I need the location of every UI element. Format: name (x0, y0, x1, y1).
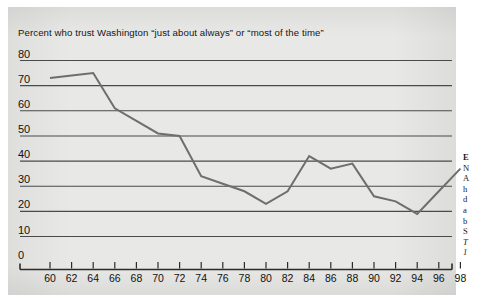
x-axis-tick-label: 82 (278, 272, 298, 284)
side-text-line: b (463, 216, 483, 227)
side-text-line: a (463, 205, 483, 216)
x-axis-tick-label: 84 (299, 272, 319, 284)
x-axis-tick-label: 66 (105, 272, 125, 284)
y-axis-tick-label: 80 (18, 48, 30, 60)
side-text-line: S (463, 226, 483, 237)
side-text-line: E (463, 152, 483, 163)
x-axis-tick-label: 96 (429, 272, 449, 284)
y-axis-tick-label: 10 (18, 224, 30, 236)
chart-panel (8, 7, 456, 295)
y-axis-tick-label: 70 (18, 73, 30, 85)
x-axis-tick-label: 94 (407, 272, 427, 284)
y-axis-tick-label: 60 (18, 98, 30, 110)
x-axis-tick-label: 68 (126, 272, 146, 284)
x-axis-tick-label: 74 (191, 272, 211, 284)
x-axis-tick-label: 60 (40, 272, 60, 284)
side-text-line: d (463, 194, 483, 205)
side-text-line: N (463, 163, 483, 174)
x-axis-tick-label: 88 (342, 272, 362, 284)
x-axis-tick-label: 62 (62, 272, 82, 284)
x-axis-tick-label: 92 (386, 272, 406, 284)
figure-root: Percent who trust Washington “just about… (0, 0, 483, 303)
y-axis-tick-label: 50 (18, 123, 30, 135)
x-axis-tick-label: 72 (170, 272, 190, 284)
side-text-line: T (463, 237, 483, 248)
y-axis-tick-label: 0 (18, 249, 24, 261)
y-axis-tick-label: 40 (18, 148, 30, 160)
x-axis-tick-label: 64 (83, 272, 103, 284)
x-axis-tick-label: 70 (148, 272, 168, 284)
y-axis-tick-label: 20 (18, 198, 30, 210)
x-axis-tick-label: 86 (321, 272, 341, 284)
x-axis-tick-label: 80 (256, 272, 276, 284)
chart-title: Percent who trust Washington “just about… (18, 27, 324, 38)
x-axis-tick-label: 78 (234, 272, 254, 284)
x-axis-tick-label: 90 (364, 272, 384, 284)
y-axis-tick-label: 30 (18, 173, 30, 185)
side-text-line: h (463, 184, 483, 195)
side-text-column: E N A h d a b S T 1 (463, 152, 483, 258)
x-axis-tick-label: 98 (450, 272, 470, 284)
side-text-line: A (463, 173, 483, 184)
x-axis-tick-label: 76 (213, 272, 233, 284)
side-text-line: 1 (463, 247, 483, 258)
